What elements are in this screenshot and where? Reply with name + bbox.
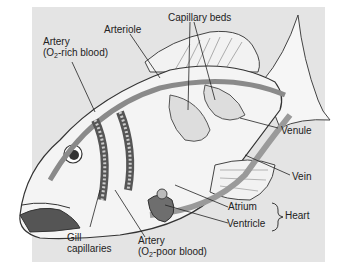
label-artery-rich: Artery (O2-rich blood) [43, 36, 108, 58]
label-text: Gill [67, 232, 111, 243]
label-vein: Vein [292, 171, 311, 182]
label-text: Artery [43, 36, 108, 47]
label-gill-capillaries: Gill capillaries [67, 232, 111, 254]
label-heart: Heart [285, 210, 309, 221]
label-text: (O2-poor blood) [138, 246, 207, 257]
label-text: capillaries [67, 243, 111, 254]
label-venule: Venule [281, 125, 312, 136]
label-atrium: Atrium [228, 201, 257, 212]
heart-brace [272, 203, 283, 231]
label-capillary-beds: Capillary beds [168, 12, 231, 23]
label-arteriole: Arteriole [104, 24, 141, 35]
label-text: Artery [138, 235, 207, 246]
label-artery-poor: Artery (O2-poor blood) [138, 235, 207, 257]
label-ventricle: Ventricle [227, 218, 265, 229]
label-text: (O2-rich blood) [43, 47, 108, 58]
